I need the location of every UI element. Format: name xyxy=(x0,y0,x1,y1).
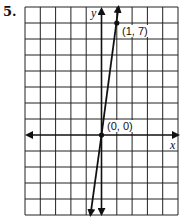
point-origin xyxy=(99,132,104,137)
point-1-7 xyxy=(114,20,119,25)
point-label-origin: (0, 0) xyxy=(107,120,133,132)
coordinate-graph xyxy=(0,0,183,218)
y-axis-label: y xyxy=(91,6,96,21)
point-label-1-7: (1, 7) xyxy=(122,25,148,37)
x-axis-label: x xyxy=(170,138,175,153)
